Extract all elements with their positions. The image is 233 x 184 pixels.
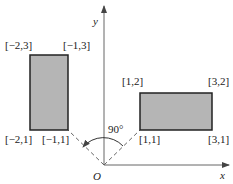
x-axis-label: x (219, 169, 225, 181)
dashed-line-to-rotated (68, 130, 104, 165)
corner-label: [−2,3] (5, 39, 32, 51)
corner-label: [−2,1] (5, 133, 32, 145)
rotation-diagram: 90° O y x [−2,3] [−1,3] [−2,1] [−1,1] [1… (0, 0, 233, 184)
original-rectangle (140, 93, 212, 130)
corner-label: [−1,1] (42, 133, 69, 145)
y-axis-label: y (92, 15, 98, 27)
dashed-line-to-original (104, 130, 140, 165)
origin-label: O (93, 170, 101, 182)
corner-label: [1,2] (122, 75, 143, 87)
corner-label: [−1,3] (63, 39, 90, 51)
rotation-arc-icon (83, 138, 123, 147)
corner-label: [1,1] (139, 133, 160, 145)
corner-label: [3,1] (208, 133, 229, 145)
corner-label: [3,2] (208, 75, 229, 87)
angle-label: 90° (108, 123, 123, 135)
rotated-rectangle (30, 55, 68, 130)
